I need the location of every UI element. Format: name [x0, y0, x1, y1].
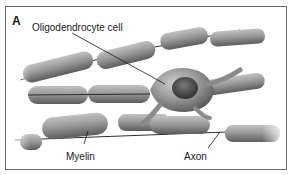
label-axon: Axon [184, 151, 207, 162]
nucleus [172, 77, 198, 99]
label-myelin: Myelin [66, 151, 95, 162]
label-oligodendrocyte-cell: Oligodendrocyte cell [32, 22, 123, 33]
panel-label: A [12, 14, 21, 28]
oligodendrocyte-diagram: A Oligodendrocyte cell Myelin Axon [0, 0, 291, 175]
